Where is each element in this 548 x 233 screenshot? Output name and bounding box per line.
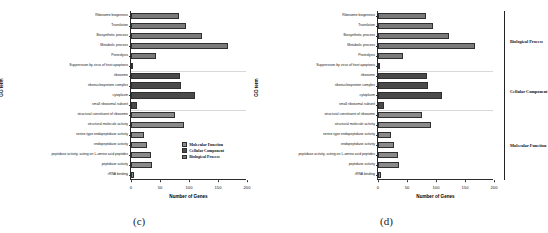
y-tick-mark — [376, 145, 378, 146]
bar — [131, 162, 152, 168]
y-tick-mark — [376, 56, 378, 57]
panel-caption-d: (d) — [380, 215, 393, 227]
y-tick-mark — [129, 16, 131, 17]
legend-swatch — [182, 148, 187, 152]
y-tick-mark — [376, 105, 378, 106]
bar-row: ribonucleoprotein complex — [378, 81, 493, 91]
bar-row: serine-type endopeptidase activity — [131, 130, 246, 140]
y-tick-label: Suppression by virus of host apoptosis — [316, 61, 375, 71]
x-tick — [407, 180, 408, 182]
y-tick-label: cytoplasm — [113, 91, 128, 101]
bar — [378, 53, 403, 59]
y-axis-title-c: GO term — [0, 78, 4, 96]
bar — [131, 172, 134, 178]
bar-row: ribosome — [131, 71, 246, 81]
bar-row: Proteolysis — [378, 51, 493, 61]
y-tick-mark — [129, 115, 131, 116]
y-tick-label: serine-type endopeptidase activity — [76, 130, 128, 140]
legend-label: Biological Process — [189, 154, 220, 159]
y-tick-label: structural constituent of ribosome — [77, 110, 128, 120]
y-tick-label: peptidase activity — [102, 160, 128, 170]
group-bracket: Cellular Component — [504, 71, 505, 111]
y-tick-mark — [129, 66, 131, 67]
y-tick-mark — [376, 115, 378, 116]
bar — [131, 122, 184, 128]
y-tick-mark — [129, 165, 131, 166]
y-tick-label: small ribosomal subunit — [339, 100, 375, 110]
y-tick-label: peptidase activity, acting on L-amino ac… — [51, 150, 128, 160]
bar — [378, 92, 442, 98]
y-tick-label: serine-type endopeptidase activity — [323, 130, 375, 140]
bar-row: Suppression by virus of host apoptosis — [378, 61, 493, 71]
x-tick — [131, 180, 132, 182]
bar-row: Metabolic process — [131, 41, 246, 51]
y-tick-label: Translation — [358, 21, 375, 31]
group-bracket: Biological Process — [504, 11, 505, 71]
group-separator — [131, 71, 246, 72]
legend-label: Molecular Function — [189, 142, 223, 147]
bar — [378, 63, 380, 69]
group-separator — [378, 71, 493, 72]
y-tick-label: Translation — [111, 21, 128, 31]
bar — [131, 132, 144, 138]
y-tick-mark — [376, 76, 378, 77]
y-tick-mark — [129, 155, 131, 156]
bar — [131, 63, 133, 69]
y-tick-label: endopeptidase activity — [94, 140, 128, 150]
y-tick-label: structural molecule activity — [88, 120, 128, 130]
y-tick-mark — [129, 175, 131, 176]
x-tick — [465, 180, 466, 182]
bar — [378, 43, 475, 49]
legend-swatch — [182, 142, 187, 146]
y-tick-mark — [376, 16, 378, 17]
bar-row: small ribosomal subunit — [378, 100, 493, 110]
y-tick-mark — [129, 95, 131, 96]
y-tick-label: Biosynthetic process — [344, 31, 376, 41]
x-tick — [378, 180, 379, 182]
y-tick-label: Biosynthetic process — [97, 31, 129, 41]
bar-row: rRNA binding — [131, 170, 246, 180]
y-tick-mark — [129, 125, 131, 126]
group-bracket-label: Cellular Component — [510, 88, 548, 93]
bar-row: peptidase activity — [378, 160, 493, 170]
legend-item: Cellular Component — [182, 148, 224, 153]
bar — [378, 122, 431, 128]
bar-row: Metabolic process — [378, 41, 493, 51]
legend-item: Molecular Function — [182, 142, 224, 147]
y-tick-mark — [376, 46, 378, 47]
x-tick-label: 150 — [215, 185, 222, 190]
x-tick — [218, 180, 219, 182]
group-separator — [378, 110, 493, 111]
y-tick-label: peptidase activity, acting on L-amino ac… — [298, 150, 375, 160]
x-tick-label: 100 — [433, 185, 440, 190]
bar — [131, 142, 147, 148]
bar-row: peptidase activity, acting on L-amino ac… — [378, 150, 493, 160]
bar-row: cytoplasm — [131, 91, 246, 101]
bar-row: structural molecule activity — [378, 120, 493, 130]
y-tick-mark — [129, 36, 131, 37]
y-tick-label: Proteolysis — [111, 51, 128, 61]
legend-swatch — [182, 155, 187, 159]
bar — [378, 172, 381, 178]
bar-row: peptidase activity — [131, 160, 246, 170]
bar-row: ribosome — [378, 71, 493, 81]
group-bracket-label: Biological Process — [510, 38, 543, 43]
y-tick-mark — [129, 105, 131, 106]
legend-c: Molecular FunctionCellular ComponentBiol… — [182, 142, 224, 159]
x-tick-label: 200 — [244, 185, 251, 190]
y-tick-label: endopeptidase activity — [341, 140, 375, 150]
y-tick-mark — [376, 95, 378, 96]
bar-row: Suppression by virus of host apoptosis — [131, 61, 246, 71]
bar-row: endopeptidase activity — [378, 140, 493, 150]
y-tick-label: ribosome — [361, 71, 375, 81]
y-tick-label: ribosome — [114, 71, 128, 81]
x-tick-label: 100 — [186, 185, 193, 190]
y-tick-label: structural constituent of ribosome — [324, 110, 375, 120]
bar — [131, 13, 179, 19]
y-tick-mark — [129, 145, 131, 146]
bar-row: Biosynthetic process — [131, 31, 246, 41]
panel-c: GO term Number of Genes Ribosome biogene… — [0, 0, 257, 233]
y-tick-mark — [376, 165, 378, 166]
bar — [378, 142, 394, 148]
